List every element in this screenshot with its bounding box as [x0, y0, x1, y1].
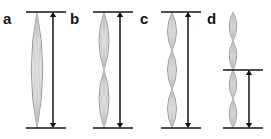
- lens-segment: [229, 99, 237, 128]
- lens-segment: [229, 70, 237, 99]
- panel-b: [93, 12, 133, 128]
- lens-segment: [229, 41, 237, 70]
- panel-label-d: d: [207, 11, 216, 26]
- panel-label-b: b: [70, 11, 79, 26]
- panel-label-a: a: [3, 11, 11, 26]
- panel-c: [161, 12, 201, 128]
- lens-segment: [168, 51, 177, 90]
- figure-canvas: abcd: [0, 0, 271, 139]
- lens-segment: [229, 12, 237, 41]
- lens-segment: [168, 89, 177, 128]
- panel-label-c: c: [140, 11, 148, 26]
- panel-a: [26, 12, 66, 128]
- lens-segment: [31, 12, 43, 128]
- panel-d: [223, 12, 263, 128]
- lens-segment: [168, 12, 177, 51]
- lens-segment: [99, 70, 109, 128]
- diagram-svg: [0, 0, 271, 139]
- lens-segment: [99, 12, 109, 70]
